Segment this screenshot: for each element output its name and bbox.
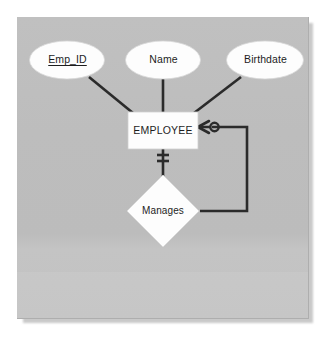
- er-diagram-screenshot: Emp_ID Name Birthdate EMPLOYEE Manages: [0, 0, 328, 338]
- crow-foot-many-marker: [198, 121, 210, 133]
- entity-rectangle-employee[interactable]: [128, 112, 198, 149]
- attribute-ellipse-birthdate[interactable]: [227, 41, 304, 79]
- diagram-vector-layer: [0, 0, 328, 338]
- connector-recursive-manages-to-employee: [200, 127, 247, 211]
- connector-emp-id-to-employee: [89, 77, 133, 113]
- attribute-ellipse-name[interactable]: [126, 41, 201, 79]
- attribute-ellipse-emp-id[interactable]: [30, 41, 105, 79]
- relationship-diamond-manages[interactable]: [127, 175, 199, 247]
- connector-birthdate-to-employee: [194, 77, 241, 113]
